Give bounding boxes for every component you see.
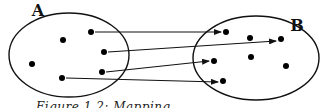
set-a-element-point [99, 69, 105, 75]
set-b-element-point [247, 35, 253, 41]
set-a-label: A [31, 1, 45, 20]
set-a-element-point [59, 75, 65, 81]
set-a-element-point [101, 49, 107, 55]
set-b-element-point [248, 54, 254, 60]
set-b-element-point [220, 78, 226, 84]
set-a-element-point [88, 29, 94, 35]
set-b-element-point [211, 58, 217, 64]
set-a-ellipse [9, 13, 129, 97]
set-b-label: B [290, 16, 304, 35]
mapping-arrow [66, 78, 218, 82]
set-a-element-point [60, 37, 66, 43]
set-mapping-diagram: AB [0, 0, 329, 108]
set-b-element-point [278, 36, 284, 42]
figure-caption: Figure 1.2: Mapping [36, 100, 171, 108]
set-a-element-point [29, 61, 35, 67]
mapping-arrow [108, 41, 276, 52]
set-b-element-point [283, 63, 289, 69]
set-b-element-point [223, 29, 229, 35]
